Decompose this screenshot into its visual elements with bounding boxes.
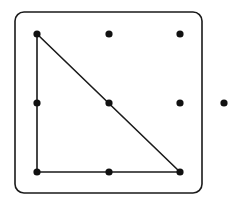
peg-dot [33, 30, 40, 37]
peg-dot [105, 99, 112, 106]
outside-peg [220, 99, 227, 106]
peg-dot [176, 30, 183, 37]
peg-dot [176, 168, 183, 175]
peg-dot [33, 99, 40, 106]
peg-dot [33, 168, 40, 175]
peg-dot [176, 99, 183, 106]
geoboard-diagram [0, 0, 235, 205]
peg-dot [105, 30, 112, 37]
peg-dot [105, 168, 112, 175]
